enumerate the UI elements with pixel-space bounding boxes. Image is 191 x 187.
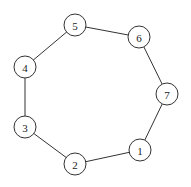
node-label: 4 bbox=[22, 62, 28, 74]
node-7: 7 bbox=[156, 83, 178, 105]
node-label: 1 bbox=[137, 145, 143, 157]
node-label: 5 bbox=[72, 20, 78, 32]
node-4: 4 bbox=[14, 56, 36, 78]
node-label: 3 bbox=[22, 122, 28, 134]
node-3: 3 bbox=[14, 116, 36, 138]
node-label: 6 bbox=[136, 32, 142, 44]
node-2: 2 bbox=[64, 153, 86, 175]
node-label: 7 bbox=[164, 89, 170, 101]
node-5: 5 bbox=[64, 14, 86, 36]
node-6: 6 bbox=[128, 26, 150, 48]
nodes-layer: 1234567 bbox=[14, 14, 178, 175]
node-1: 1 bbox=[129, 139, 151, 161]
node-label: 2 bbox=[72, 159, 78, 171]
cycle-graph-diagram: 1234567 bbox=[0, 0, 191, 187]
